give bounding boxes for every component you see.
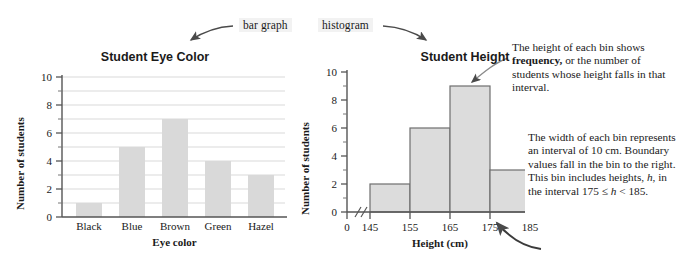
bar-chart-ytick-0: 0 bbox=[20, 211, 52, 223]
note-frequency-text-pre: The height of each bin shows bbox=[512, 41, 645, 53]
bin-155-165 bbox=[410, 128, 450, 212]
histogram-xtick-155: 155 bbox=[390, 221, 430, 233]
histogram-x-axis-label: Height (cm) bbox=[347, 237, 533, 249]
bar-chart-bars bbox=[76, 119, 274, 217]
histogram-ytick-8: 8 bbox=[305, 94, 337, 106]
histogram-xtick-185: 185 bbox=[510, 221, 550, 233]
callout-label-histogram: histogram bbox=[318, 18, 373, 32]
bin-165-175 bbox=[450, 86, 490, 212]
bar-black bbox=[76, 203, 102, 217]
figure-root: bar graph histogram Student Eye Color Nu… bbox=[0, 0, 678, 266]
histogram-ytick-6: 6 bbox=[305, 122, 337, 134]
bar-chart-xtick-hazel: Hazel bbox=[236, 220, 286, 232]
histogram-xtick-175: 175 bbox=[470, 221, 510, 233]
bar-chart-ytick-10: 10 bbox=[20, 71, 52, 83]
callout-label-bar-graph: bar graph bbox=[239, 18, 292, 32]
histogram-xtick-165: 165 bbox=[430, 221, 470, 233]
arrow-to-histogram bbox=[383, 26, 426, 40]
note-frequency-keyword: frequency, bbox=[512, 54, 562, 66]
note-bin-width: The width of each bin represents an inte… bbox=[528, 131, 678, 198]
histogram-ytick-10: 10 bbox=[305, 66, 337, 78]
histogram-chart: Student Height Number of students bbox=[285, 50, 525, 250]
bar-green bbox=[205, 161, 231, 217]
histogram-x-ticks bbox=[347, 212, 525, 219]
histogram-xtick-145: 145 bbox=[350, 221, 390, 233]
note-frequency: The height of each bin shows frequency, … bbox=[512, 41, 676, 95]
bar-hazel bbox=[248, 175, 274, 217]
histogram-ytick-4: 4 bbox=[305, 150, 337, 162]
histogram-ytick-0: 0 bbox=[305, 206, 337, 218]
bar-blue bbox=[119, 147, 145, 217]
bar-brown bbox=[162, 119, 188, 217]
bar-chart-ytick-8: 8 bbox=[20, 99, 52, 111]
bar-chart-ytick-6: 6 bbox=[20, 127, 52, 139]
bar-chart-ytick-4: 4 bbox=[20, 155, 52, 167]
bar-chart-ytick-2: 2 bbox=[20, 183, 52, 195]
bar-chart-x-axis-label: Eye color bbox=[62, 236, 287, 248]
bar-chart: Student Eye Color Number of students bbox=[0, 50, 300, 240]
bin-145-155 bbox=[370, 184, 410, 212]
histogram-bins bbox=[370, 86, 525, 212]
arrow-to-bar-graph bbox=[191, 26, 233, 40]
note-bin-width-text-post: < 185. bbox=[616, 185, 648, 197]
histogram-ytick-2: 2 bbox=[305, 178, 337, 190]
bin-175-185 bbox=[490, 170, 525, 212]
